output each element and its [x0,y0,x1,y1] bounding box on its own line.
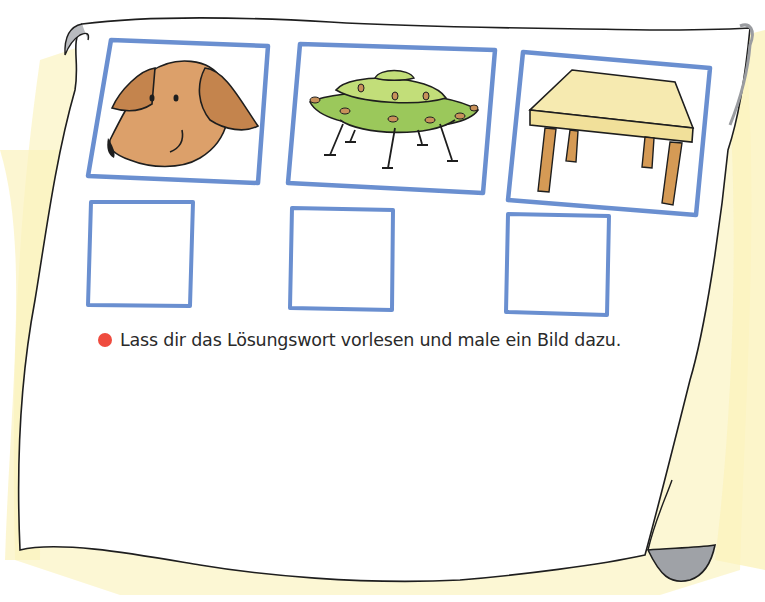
picture-frame-table [508,52,710,215]
picture-frame-dog [88,40,268,183]
scroll-paper [0,0,765,602]
picture-frame-ufo [288,44,495,193]
instruction-line: Lass dir das Lösungswort vorlesen und ma… [98,330,621,350]
instruction-text: Lass dir das Lösungswort vorlesen und ma… [120,330,621,350]
red-bullet-icon [98,333,112,347]
worksheet-scroll: Lass dir das Lösungswort vorlesen und ma… [0,0,765,602]
